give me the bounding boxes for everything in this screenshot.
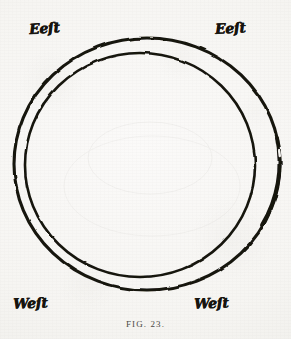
- compass-label-top-left: Eeſt: [28, 19, 60, 37]
- diagram-canvas: [0, 0, 291, 310]
- outer-circle-break-upper: [279, 151, 280, 156]
- outer-circle-group: [14, 38, 280, 290]
- figure-page: only by this light is here to find out w…: [0, 0, 291, 339]
- compass-label-top-right: Eeſt: [215, 19, 246, 37]
- inner-circle-group: [25, 53, 255, 277]
- compass-label-bottom-left: Weſt: [13, 294, 48, 311]
- outer-circle: [14, 38, 280, 290]
- outer-circle-break-lower: [271, 212, 272, 216]
- figure-caption: FIG. 23.: [0, 319, 291, 329]
- inner-circle: [25, 53, 255, 277]
- paper-showthrough-marks: [64, 122, 240, 236]
- outer-circle-heavy-right: [262, 138, 280, 225]
- compass-label-bottom-right: Weſt: [194, 294, 229, 311]
- concentric-circles-svg: [0, 0, 291, 310]
